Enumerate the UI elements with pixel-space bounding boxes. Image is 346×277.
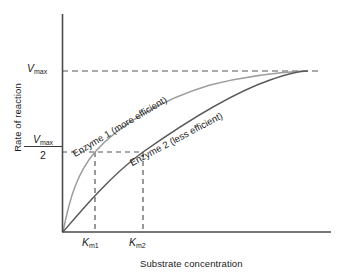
vmax-v-glyph: V — [27, 62, 34, 74]
vmax-half-subscript: max — [40, 139, 53, 146]
km2-k-glyph: K — [129, 236, 136, 248]
x-tick-label-km1: Km1 — [82, 236, 99, 248]
x-tick-label-km2: Km2 — [129, 236, 146, 248]
y-tick-label-vmax: Vmax — [27, 62, 47, 74]
vmax-subscript: max — [34, 68, 47, 75]
fraction-numerator: Vmax — [24, 133, 62, 146]
x-axis-title: Substrate concentration — [140, 258, 243, 269]
km2-subscript: m2 — [136, 242, 146, 249]
fraction-denominator: 2 — [24, 147, 62, 161]
y-axis-title: Rate of reaction — [12, 63, 23, 173]
km1-k-glyph: K — [82, 236, 89, 248]
km1-subscript: m1 — [89, 242, 99, 249]
y-tick-label-vmax-half: Vmax 2 — [24, 133, 62, 161]
vmax-half-v-glyph: V — [33, 133, 40, 145]
enzyme-kinetics-chart: Rate of reaction Substrate concentration… — [0, 0, 346, 277]
